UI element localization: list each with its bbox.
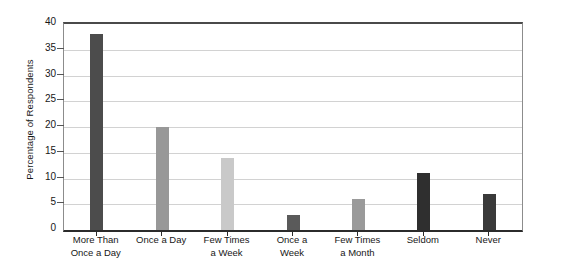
x-axis-tick-mark — [488, 230, 489, 236]
y-axis-tick-label: 40 — [26, 17, 56, 27]
y-axis-tick-mark — [57, 177, 64, 178]
plot-area — [63, 22, 523, 232]
bar — [483, 194, 496, 230]
x-axis-category-label-line: a Month — [325, 247, 390, 260]
x-axis-category-label: Few Timesa Month — [325, 234, 390, 259]
x-axis-category-label: Few Timesa Week — [194, 234, 259, 259]
y-axis-tick-label: 15 — [26, 146, 56, 156]
x-axis-tick-mark — [423, 230, 424, 236]
bar — [221, 158, 234, 230]
bar — [417, 173, 430, 230]
x-axis-tick-mark — [357, 230, 358, 236]
y-axis-tick-mark — [57, 48, 64, 49]
x-axis-category-label: Once aWeek — [259, 234, 324, 259]
bar — [287, 215, 300, 230]
bar — [352, 199, 365, 230]
x-axis-category-label-line: Week — [259, 247, 324, 260]
y-axis-tick-label: 5 — [26, 197, 56, 207]
y-axis-tick-label: 10 — [26, 172, 56, 182]
y-axis-tick-mark — [57, 99, 64, 100]
x-axis-tick-mark — [161, 230, 162, 236]
y-axis-tick-label: 30 — [26, 69, 56, 79]
y-axis-tick-mark — [57, 151, 64, 152]
y-axis-tick-label: 35 — [26, 43, 56, 53]
y-axis-tick-labels: 4035302520151050 — [26, 0, 56, 273]
x-axis-category-label-line: a Week — [194, 247, 259, 260]
y-axis-tick-label: 20 — [26, 120, 56, 130]
bar — [90, 34, 103, 230]
y-axis-tick-label: 25 — [26, 94, 56, 104]
x-axis-tick-mark — [96, 230, 97, 236]
y-axis-tick-label: 0 — [26, 223, 56, 233]
x-axis-tick-mark — [227, 230, 228, 236]
bar — [156, 127, 169, 230]
y-axis-tick-mark — [57, 202, 64, 203]
y-axis-tick-mark — [57, 125, 64, 126]
bar-chart: Percentage of Respondents 40353025201510… — [0, 0, 564, 273]
y-axis-tick-mark — [57, 74, 64, 75]
x-axis-category-label-line: Once a Day — [63, 247, 128, 260]
x-axis-category-label: More ThanOnce a Day — [63, 234, 128, 259]
x-axis-tick-mark — [292, 230, 293, 236]
x-axis-category-labels: More ThanOnce a DayOnce a DayFew Timesa … — [63, 234, 523, 270]
bars-group — [64, 24, 522, 230]
